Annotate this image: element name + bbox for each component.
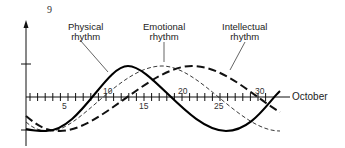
x-tick-label-25: 25 xyxy=(214,101,223,111)
x-axis xyxy=(26,93,290,101)
y-axis xyxy=(21,24,31,146)
x-tick-label-15: 15 xyxy=(139,101,148,111)
intellectual-label-line2: rhythm xyxy=(222,32,267,42)
y-axis-arrow-icon xyxy=(24,20,29,28)
annotation-leaders xyxy=(80,40,245,72)
intellectual-curve xyxy=(26,66,280,131)
emotional-curve xyxy=(26,66,280,131)
x-tick-label-10: 10 xyxy=(103,86,112,96)
intellectual-rhythm-label: Intellectual rhythm xyxy=(222,22,267,42)
emotional-label-line2: rhythm xyxy=(143,32,185,42)
x-tick-label-30: 30 xyxy=(255,86,264,96)
physical-curve xyxy=(26,66,280,131)
x-axis-label: October xyxy=(292,92,328,102)
x-tick-label-5: 5 xyxy=(62,101,67,111)
x-tick-label-20: 20 xyxy=(178,86,187,96)
physical-label-line2: rhythm xyxy=(68,32,103,42)
physical-rhythm-label: Physical rhythm xyxy=(68,22,103,42)
emotional-rhythm-label: Emotional rhythm xyxy=(143,22,185,42)
